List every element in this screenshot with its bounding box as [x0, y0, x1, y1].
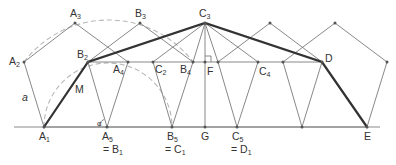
label-c1-eq: = C1 [165, 143, 186, 156]
label-g: G [201, 130, 209, 142]
pentagon-chain-diagram: A3 B3 C3 A2 B2 A4 C2 B4 F C4 D a M α A1 … [0, 0, 396, 165]
label-d1-eq: = D1 [231, 143, 252, 156]
label-b2: B2 [77, 48, 88, 61]
label-alpha: α [97, 119, 102, 128]
label-e: E [364, 130, 371, 142]
label-b1-eq: = B1 [103, 143, 123, 156]
vertex-points [23, 22, 389, 129]
label-a-side: a [22, 91, 28, 103]
label-c2: C2 [155, 63, 167, 76]
label-m: M [75, 83, 84, 95]
arc-side [44, 63, 172, 127]
label-c5: C5 [232, 130, 244, 143]
thick-path [44, 23, 367, 127]
label-a5: A5 [102, 130, 113, 143]
label-a2: A2 [9, 55, 20, 68]
label-a3: A3 [70, 7, 81, 20]
label-c3: C3 [199, 7, 211, 20]
label-d: D [325, 52, 333, 64]
pentagon-a [24, 23, 128, 127]
c3-b4-line [193, 23, 205, 62]
label-b3: B3 [135, 7, 146, 20]
label-b4: B4 [180, 63, 191, 76]
label-c4: C4 [259, 65, 271, 78]
pentagon-e [283, 23, 387, 127]
label-a1: A1 [39, 130, 50, 143]
pentagon-b [88, 23, 193, 127]
label-f: F [207, 65, 213, 77]
label-b5: B5 [167, 130, 178, 143]
